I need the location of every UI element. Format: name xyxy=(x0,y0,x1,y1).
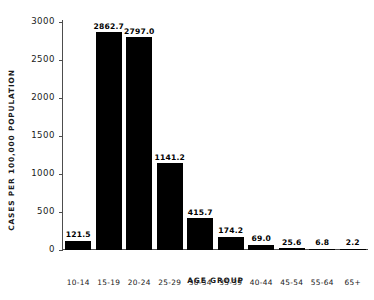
bar-group[interactable]: 6.855-64 xyxy=(309,22,335,250)
bar-chart: CASES PER 100,000 POPULATION 05001000150… xyxy=(0,0,374,300)
bar-value-label: 6.8 xyxy=(315,238,329,247)
bar[interactable] xyxy=(65,241,91,250)
y-axis-tick-label: 0 xyxy=(49,244,55,254)
x-axis-title: AGE GROUP xyxy=(63,276,368,285)
bar[interactable] xyxy=(279,248,305,250)
bar-group[interactable]: 2797.020-24 xyxy=(126,22,152,250)
y-axis-tick: 1500 xyxy=(0,136,63,137)
bar-value-label: 2862.7 xyxy=(93,22,124,31)
bar[interactable] xyxy=(126,37,152,250)
y-axis-tick-label: 2000 xyxy=(31,92,55,102)
bar-value-label: 121.5 xyxy=(66,230,91,239)
bar-group[interactable]: 415.730-34 xyxy=(187,22,213,250)
y-axis-tick: 500 xyxy=(0,212,63,213)
bar[interactable] xyxy=(309,249,335,250)
bar-group[interactable]: 2862.715-19 xyxy=(96,22,122,250)
bar-group[interactable]: 25.645-54 xyxy=(279,22,305,250)
bar[interactable] xyxy=(187,218,213,250)
y-axis-tick-label: 1000 xyxy=(31,168,55,178)
bar[interactable] xyxy=(96,32,122,250)
bar[interactable] xyxy=(340,249,366,250)
bar-group[interactable]: 69.040-44 xyxy=(248,22,274,250)
y-axis-tick-mark xyxy=(59,250,64,251)
y-axis-tick-label: 500 xyxy=(37,206,55,216)
bar-group[interactable]: 174.235-39 xyxy=(218,22,244,250)
bar-value-label: 2797.0 xyxy=(124,27,155,36)
plot-area: 121.510-142862.715-192797.020-241141.225… xyxy=(63,22,368,250)
y-axis-tick-label: 1500 xyxy=(31,130,55,140)
bar-value-label: 415.7 xyxy=(188,208,213,217)
bar-group[interactable]: 121.510-14 xyxy=(65,22,91,250)
y-axis-tick: 2000 xyxy=(0,98,63,99)
y-axis-tick: 0 xyxy=(0,250,63,251)
bar-value-label: 174.2 xyxy=(218,226,243,235)
bar[interactable] xyxy=(157,163,183,250)
bar[interactable] xyxy=(218,237,244,250)
bar-value-label: 69.0 xyxy=(251,234,271,243)
y-axis-tick: 2500 xyxy=(0,60,63,61)
bar-value-label: 2.2 xyxy=(346,238,360,247)
bar-group[interactable]: 1141.225-29 xyxy=(157,22,183,250)
bar-group[interactable]: 2.265+ xyxy=(340,22,366,250)
y-axis-title: CASES PER 100,000 POPULATION xyxy=(2,0,20,300)
y-axis-tick-label: 2500 xyxy=(31,54,55,64)
bar[interactable] xyxy=(248,245,274,250)
y-axis-tick: 3000 xyxy=(0,22,63,23)
y-axis-tick: 1000 xyxy=(0,174,63,175)
bar-value-label: 25.6 xyxy=(282,238,302,247)
bar-value-label: 1141.2 xyxy=(154,153,185,162)
y-axis-tick-label: 3000 xyxy=(31,16,55,26)
